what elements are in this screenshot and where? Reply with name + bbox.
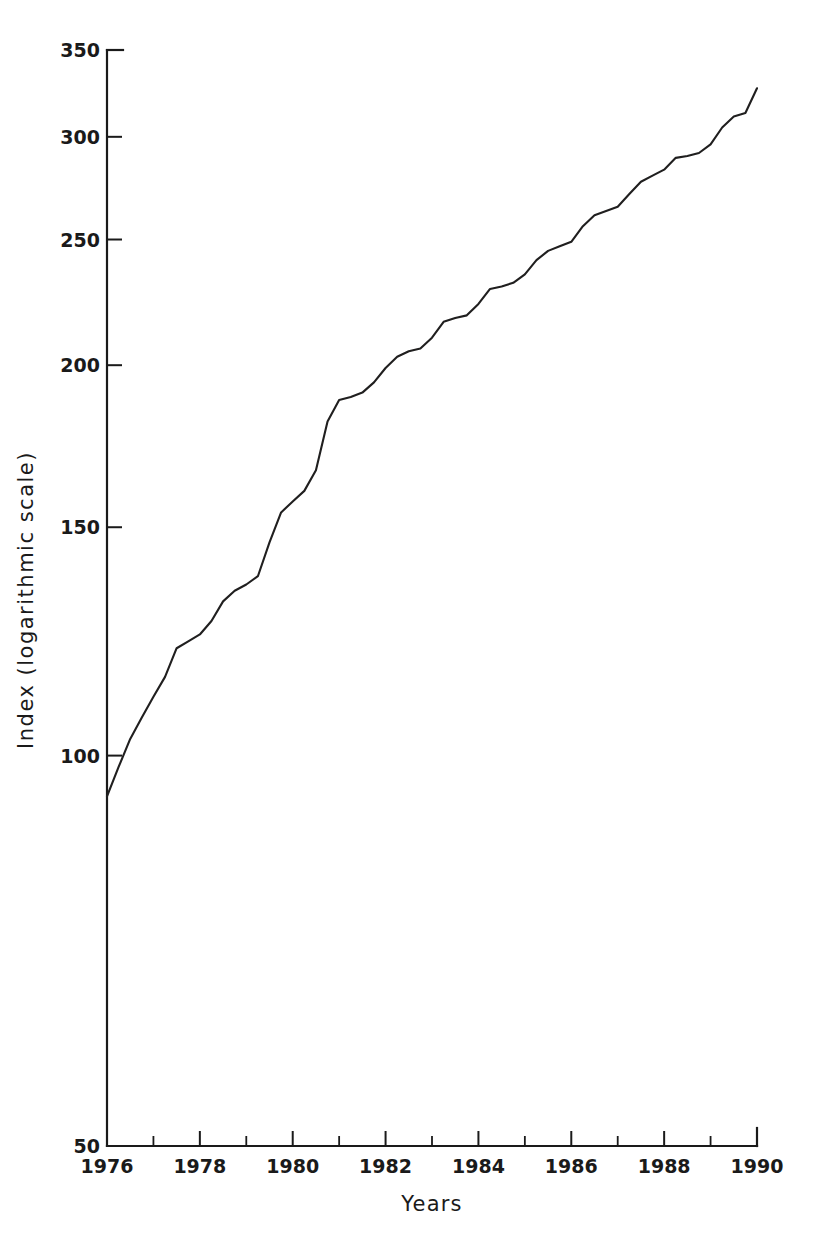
x-tick-label: 1990 <box>731 1155 784 1177</box>
chart-figure: 50100150200250300350 1976197819801982198… <box>0 0 813 1251</box>
data-series-group <box>107 88 757 796</box>
x-tick-label: 1982 <box>359 1155 412 1177</box>
y-tick-label: 350 <box>40 39 100 61</box>
y-tick-label: 250 <box>40 229 100 251</box>
x-axis-ticks <box>107 1131 757 1146</box>
series-line-index <box>107 88 757 796</box>
y-tick-label: 100 <box>40 745 100 767</box>
x-tick-label: 1980 <box>266 1155 319 1177</box>
x-tick-label: 1978 <box>173 1155 226 1177</box>
axes <box>107 50 757 1146</box>
chart-plot-area <box>0 0 813 1251</box>
y-tick-label: 200 <box>40 354 100 376</box>
x-axis-title: Years <box>401 1192 462 1216</box>
x-tick-label: 1988 <box>638 1155 691 1177</box>
y-axis-ticks <box>107 50 122 1146</box>
y-tick-label: 50 <box>40 1135 100 1157</box>
x-tick-label: 1984 <box>452 1155 505 1177</box>
x-tick-label: 1976 <box>81 1155 134 1177</box>
y-tick-label: 300 <box>40 126 100 148</box>
x-tick-label: 1986 <box>545 1155 598 1177</box>
y-tick-label: 150 <box>40 516 100 538</box>
y-axis-title: Index (logarithmic scale) <box>14 451 38 749</box>
